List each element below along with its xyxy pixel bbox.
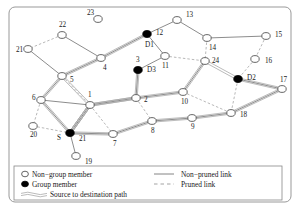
non-group-member-marker [29, 123, 37, 130]
node-2[interactable]: 2 [132, 95, 148, 104]
node-12[interactable]: 12D1 [143, 29, 164, 49]
node-13[interactable]: 13 [173, 11, 194, 23]
node-label-3: 3 [136, 56, 140, 64]
node-label-11: 11 [162, 62, 169, 70]
non-group-member-marker [173, 17, 181, 24]
node-16[interactable]: 16 [251, 56, 273, 65]
non-group-member-marker [58, 73, 66, 80]
link-14-15 [207, 36, 266, 38]
node-label-1: 1 [88, 91, 92, 99]
link-13-14 [177, 20, 207, 38]
link-4-12 [101, 34, 147, 58]
link-S-1 [70, 105, 90, 133]
non-group-member-marker [37, 97, 45, 104]
legend-label-group-member: Group member [32, 180, 77, 189]
node-label-5: 5 [70, 76, 74, 84]
node-11[interactable]: 11 [161, 53, 170, 70]
node-label-8: 8 [151, 127, 155, 135]
node-label-16: 16 [265, 57, 273, 65]
non-group-member-marker [58, 32, 66, 39]
node-15[interactable]: 15 [262, 31, 283, 39]
non-group-member-marker [161, 53, 169, 60]
node-label-15: 15 [275, 31, 283, 39]
node-21[interactable]: 21 [16, 46, 32, 54]
path-segment [71, 106, 91, 134]
non-group-member-marker [94, 16, 102, 23]
node-24[interactable]: 24 [201, 57, 220, 65]
path-segment [70, 132, 113, 133]
link-6-1 [41, 100, 90, 105]
node-7[interactable]: 7 [109, 131, 117, 148]
path-segment [100, 33, 146, 57]
node-10[interactable]: 10 [179, 89, 189, 106]
link-11-24 [165, 56, 205, 61]
node-label-19: 19 [85, 158, 93, 166]
link-21-5 [28, 49, 62, 76]
link-10-18 [183, 92, 231, 113]
path-segment [61, 77, 89, 106]
link-24-10 [183, 61, 205, 92]
group-label-D3: D3 [147, 66, 156, 74]
path-segment [69, 104, 89, 132]
node-label-9: 9 [191, 123, 195, 131]
non-group-member-marker [132, 95, 140, 102]
non-group-member-marker [179, 89, 187, 96]
legend-open-circle-icon [22, 171, 29, 177]
link-17-18 [231, 89, 282, 113]
node-label-12: 12 [156, 29, 164, 37]
node-label-7: 7 [113, 140, 117, 148]
group-member-marker [134, 67, 142, 74]
node-label-6: 6 [32, 94, 36, 102]
path-segment [40, 75, 61, 99]
node-label-4: 4 [103, 64, 107, 72]
node-label-2: 2 [144, 96, 148, 104]
node-17[interactable]: 17 [278, 76, 288, 92]
path-segment [182, 60, 204, 91]
node-9[interactable]: 9 [188, 115, 196, 131]
legend-label-pruned-link: Pruned link [181, 180, 216, 189]
non-group-member-marker [72, 153, 80, 160]
path-segment [238, 78, 282, 88]
node-23[interactable]: 23 [87, 9, 102, 22]
node-label-22: 22 [59, 21, 67, 29]
node-label-24: 24 [212, 57, 220, 65]
legend-label-non-pruned-link: Non−pruned link [181, 170, 232, 179]
group-member-marker [143, 31, 151, 38]
non-group-member-marker [203, 35, 211, 42]
path-segment [113, 122, 152, 135]
non-group-member-marker [97, 55, 105, 62]
path-segment [184, 62, 206, 93]
node-label-D2: D2 [247, 74, 256, 82]
path-segment [42, 99, 71, 132]
node-3[interactable]: 3D3 [134, 56, 156, 74]
path-segment [42, 77, 63, 101]
legend: Non−group memberGroup memberNon−pruned l… [14, 166, 282, 200]
link-1-2 [90, 98, 136, 105]
link-5-6 [41, 76, 62, 100]
group-label-S: S [57, 134, 61, 142]
path-segment [102, 35, 148, 59]
node-1[interactable]: 1 [86, 91, 94, 108]
non-group-member-marker [86, 102, 94, 109]
group-label-D1: D1 [145, 41, 154, 49]
non-group-member-marker [262, 33, 270, 40]
path-segment [192, 114, 231, 119]
node-label-10: 10 [181, 98, 189, 106]
path-segment [62, 59, 101, 77]
node-22[interactable]: 22 [58, 21, 67, 38]
path-segment [113, 120, 152, 133]
node-20[interactable]: 20 [29, 123, 38, 139]
link-D2-18 [231, 79, 238, 113]
node-14[interactable]: 14 [203, 35, 217, 52]
figure-root: 23132212D115142111424163D35D210176211892… [0, 0, 301, 214]
node-label-17: 17 [280, 76, 288, 84]
node-D2[interactable]: D2 [234, 74, 256, 82]
link-9-18 [192, 113, 231, 118]
node-8[interactable]: 8 [148, 118, 156, 135]
path-segment [206, 60, 239, 78]
non-group-member-marker [278, 86, 286, 93]
node-19[interactable]: 19 [72, 153, 93, 166]
non-group-member-marker [227, 110, 235, 117]
path-segment [231, 88, 282, 112]
node-4[interactable]: 4 [97, 55, 107, 72]
